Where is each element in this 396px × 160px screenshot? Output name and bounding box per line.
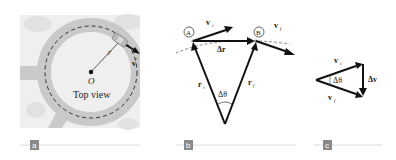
shrub: [24, 16, 52, 32]
r-final-arrowhead: [251, 42, 258, 51]
svg-text:i: i: [340, 61, 342, 66]
shrub: [26, 102, 46, 118]
delta-r-arrowhead: [247, 37, 255, 45]
svg-text:f: f: [280, 26, 282, 31]
circular-road-figure: r O Top view v → a: [0, 0, 140, 160]
v-final-label: v: [328, 93, 332, 102]
svg-text:f: f: [253, 83, 255, 88]
svg-text:i: i: [203, 85, 205, 90]
shrub: [118, 118, 138, 130]
v-initial-label: v: [206, 18, 210, 27]
v-initial-label: v: [334, 56, 338, 65]
v-final-label: v: [274, 21, 278, 30]
v-final-arrow: [256, 41, 288, 52]
delta-theta-label: Δθ: [333, 76, 342, 85]
vector-arrow-icon: →: [133, 55, 139, 61]
svg-text:f: f: [334, 98, 336, 103]
delta-r-label: Δr: [217, 45, 226, 54]
point-b-label: B: [256, 29, 261, 37]
panel-badge-b-text: b: [186, 141, 191, 150]
panel-a: r O Top view v → a: [0, 0, 140, 160]
delta-v-label: Δv: [368, 75, 377, 84]
v-final-arrowhead: [284, 48, 295, 55]
delta-theta-label: Δθ: [218, 90, 227, 99]
displacement-figure: A B v i Δr v f r i r f Δθ b: [160, 0, 300, 160]
r-initial-arrowhead: [191, 42, 198, 51]
panel-b: A B v i Δr v f r i r f Δθ b: [160, 0, 300, 160]
panel-badge-a-text: a: [32, 141, 37, 150]
v-initial-arrowhead: [355, 62, 363, 69]
center-point: [89, 70, 93, 74]
point-a-label: A: [186, 29, 191, 37]
top-view-caption: Top view: [73, 89, 111, 100]
r-final-label: r: [248, 78, 252, 87]
panel-c: v i v f Δv Δθ c: [300, 0, 396, 160]
r-initial-label: r: [198, 80, 202, 89]
velocity-triangle-figure: v i v f Δv Δθ c: [300, 0, 396, 160]
panel-badge-c-text: c: [325, 141, 329, 150]
center-label: O: [88, 76, 95, 86]
svg-text:i: i: [212, 23, 214, 28]
v-initial-arrow: [193, 30, 226, 41]
angle-arc: [218, 102, 232, 104]
